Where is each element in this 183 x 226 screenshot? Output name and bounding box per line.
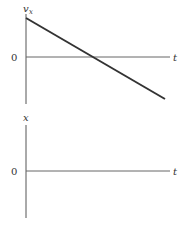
position-graph: x 0 t [11,112,178,218]
x-time-label: t [173,166,178,177]
figure: v x 0 t x 0 t [0,0,183,226]
vx-data-line [26,18,165,99]
x-origin-label: 0 [11,166,17,177]
vx-time-label: t [173,52,178,63]
x-axis-label: x [23,112,29,123]
vx-axis-label-subscript: x [29,8,33,16]
vx-origin-label: 0 [11,52,17,63]
velocity-graph: v x 0 t [11,3,178,104]
